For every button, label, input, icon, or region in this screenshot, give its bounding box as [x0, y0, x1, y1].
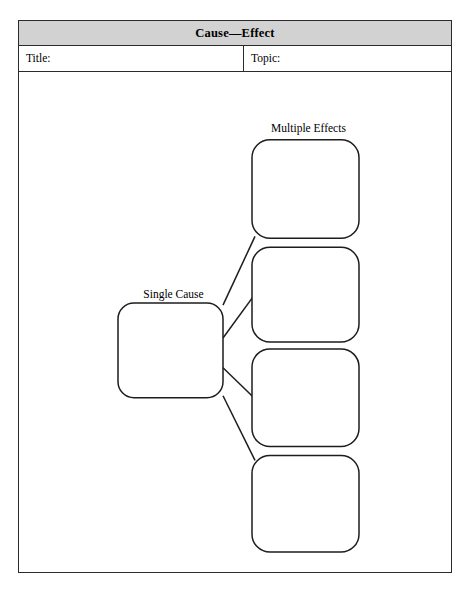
connector-line — [223, 294, 255, 338]
connector-line — [223, 396, 255, 461]
effect-box[interactable] — [252, 349, 359, 447]
single-cause-label: Single Cause — [143, 288, 203, 301]
cause-effect-diagram: Single Cause Multiple Effects — [19, 72, 451, 572]
effect-box[interactable] — [252, 455, 359, 552]
title-field[interactable]: Title: — [19, 46, 244, 71]
topic-field-label: Topic: — [251, 53, 280, 65]
effect-node[interactable] — [252, 349, 359, 447]
effect-nodes-group — [252, 140, 359, 552]
cause-box[interactable] — [118, 303, 223, 398]
worksheet-frame: Cause—Effect Title: Topic: Single Cause … — [18, 20, 452, 573]
effect-node[interactable] — [252, 455, 359, 552]
connectors-group — [223, 236, 255, 460]
multiple-effects-label: Multiple Effects — [271, 122, 346, 135]
worksheet-header: Cause—Effect — [19, 21, 451, 46]
effect-box[interactable] — [252, 247, 359, 342]
fields-row: Title: Topic: — [19, 46, 451, 72]
effect-box[interactable] — [252, 140, 359, 239]
effect-node[interactable] — [252, 247, 359, 342]
topic-field[interactable]: Topic: — [244, 46, 451, 71]
page-title: Cause—Effect — [195, 27, 274, 40]
cause-node[interactable] — [118, 303, 223, 398]
connector-line — [223, 368, 255, 399]
effect-node[interactable] — [252, 140, 359, 239]
title-field-label: Title: — [26, 53, 51, 65]
connector-line — [223, 236, 255, 305]
diagram-canvas: Single Cause Multiple Effects — [19, 72, 451, 572]
